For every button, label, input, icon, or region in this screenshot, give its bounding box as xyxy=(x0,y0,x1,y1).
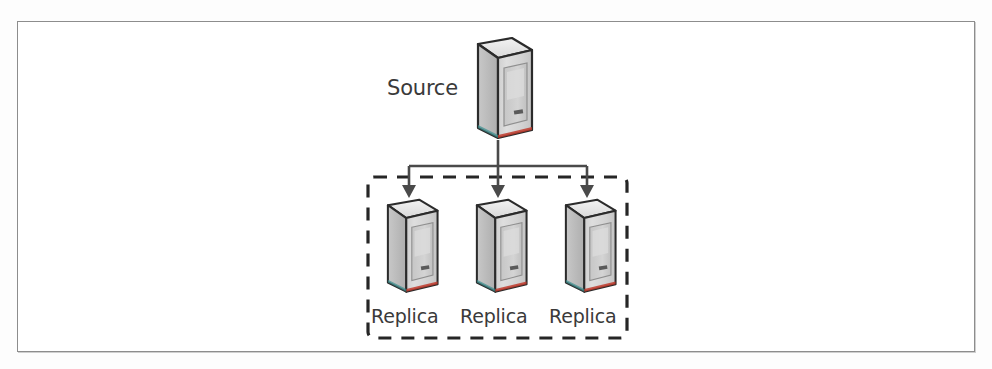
replication-connectors xyxy=(409,140,587,186)
replica-server-icon-1 xyxy=(477,200,527,292)
replica-label-2: Replica xyxy=(549,305,616,327)
replica-server-icon-2 xyxy=(566,200,616,292)
replica-label-1: Replica xyxy=(460,305,527,327)
replica-server-icon-0 xyxy=(388,200,438,292)
figure-root: Source Replica Replica Replica xyxy=(0,0,992,369)
source-label: Source xyxy=(387,76,458,100)
replica-label-0: Replica xyxy=(371,305,438,327)
source-server-icon xyxy=(478,38,532,138)
connector-arrowheads xyxy=(402,185,594,198)
